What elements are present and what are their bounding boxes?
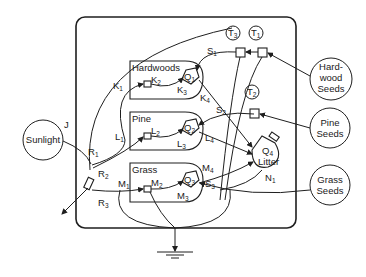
svg-text:Hard-: Hard-	[319, 61, 343, 72]
svg-text:M2: M2	[151, 177, 163, 189]
ground-sink-icon	[157, 252, 193, 258]
litter-valve-icon	[269, 132, 279, 141]
svg-text:R2: R2	[98, 168, 109, 180]
hardwood-seeds-source: Hard- wood Seeds	[310, 58, 352, 100]
hardwoods-compartment: Hardwoods Q1	[130, 61, 203, 99]
svg-text:N1: N1	[265, 172, 276, 184]
svg-text:Sunlight: Sunlight	[26, 134, 61, 145]
grass-seeds-source: Grass Seeds	[310, 165, 350, 205]
svg-text:S3: S3	[205, 178, 215, 190]
svg-text:K3: K3	[177, 84, 187, 96]
svg-text:S2: S2	[216, 104, 226, 116]
grass-label: Grass	[132, 164, 158, 175]
pine-compartment: Pine Q2	[130, 112, 203, 150]
svg-text:Seeds: Seeds	[317, 128, 344, 139]
k-valve-icon	[144, 81, 151, 87]
svg-text:S1: S1	[207, 45, 217, 57]
sunlight-source: Sunlight	[23, 120, 63, 160]
tank-t1: T1	[249, 26, 263, 40]
svg-text:R1: R1	[88, 146, 99, 158]
svg-text:Grass: Grass	[317, 174, 343, 185]
litter-compartment: Q4 Litter	[252, 132, 279, 167]
svg-text:Q1: Q1	[184, 71, 195, 83]
svg-text:L4: L4	[205, 132, 214, 144]
svg-text:Litter: Litter	[258, 156, 279, 167]
svg-text:Q2: Q2	[184, 122, 195, 134]
seed-gate-1	[236, 48, 245, 57]
svg-text:R3: R3	[98, 197, 109, 209]
tank-t3: T3	[226, 26, 240, 40]
svg-text:M1: M1	[118, 178, 130, 190]
svg-text:J: J	[64, 119, 69, 130]
svg-text:L2: L2	[151, 125, 160, 137]
svg-text:Pine: Pine	[320, 117, 339, 128]
svg-text:K2: K2	[151, 74, 161, 86]
m-valve-icon	[144, 186, 151, 192]
svg-text:M4: M4	[202, 162, 214, 174]
svg-text:wood: wood	[319, 72, 343, 83]
svg-text:L3: L3	[177, 138, 186, 150]
svg-text:K4: K4	[200, 92, 210, 104]
pine-label: Pine	[132, 113, 151, 124]
l-valve-icon	[144, 133, 151, 139]
svg-text:Q3: Q3	[184, 174, 195, 186]
svg-text:M3: M3	[177, 190, 189, 202]
svg-text:K1: K1	[113, 80, 123, 92]
pine-seeds-source: Pine Seeds	[310, 108, 350, 148]
svg-text:Seeds: Seeds	[318, 83, 345, 94]
seed-gate-2	[258, 48, 267, 57]
svg-text:Seeds: Seeds	[317, 185, 344, 196]
grass-compartment: Grass Q3	[130, 163, 203, 202]
ecosystem-diagram: Hardwoods Q1 Pine Q2 Grass Q3 Q4 Litter …	[0, 0, 366, 277]
